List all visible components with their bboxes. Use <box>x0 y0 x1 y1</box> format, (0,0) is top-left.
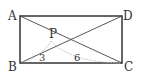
label-b: B <box>8 60 17 74</box>
label-c: C <box>124 60 133 74</box>
label-p: P <box>49 27 57 41</box>
dimension-label-pb: 3 <box>39 52 45 63</box>
label-a: A <box>7 9 17 23</box>
geometry-figure: A D B C P 3 6 <box>0 0 143 77</box>
label-d: D <box>123 9 133 23</box>
dimension-label-pc: 6 <box>74 52 80 63</box>
dimension-arc-pb <box>22 41 51 62</box>
